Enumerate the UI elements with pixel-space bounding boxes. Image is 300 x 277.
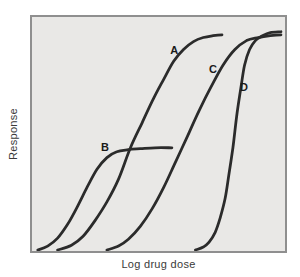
curve-label-D: D: [240, 81, 248, 92]
curve-label-A: A: [170, 45, 178, 56]
dose-response-curves: [32, 17, 285, 251]
curve-label-B: B: [101, 141, 109, 152]
x-axis-label: Log drug dose: [30, 258, 287, 270]
curve-A: [58, 35, 222, 250]
curve-label-C: C: [209, 63, 217, 74]
plot-area: ABCD: [30, 15, 287, 253]
y-axis-label-text: Response: [7, 108, 19, 160]
curve-B: [38, 148, 172, 250]
dose-response-figure: Response ABCD Log drug dose: [0, 0, 300, 277]
y-axis-label: Response: [2, 15, 24, 253]
